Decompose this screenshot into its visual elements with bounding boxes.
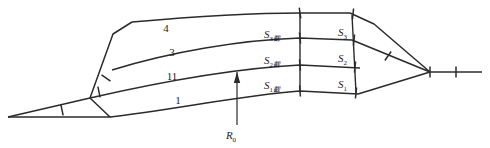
layer-3-label: 3 — [169, 46, 175, 58]
radius-arrowhead-icon — [234, 72, 240, 83]
line-diagram: 43111 S3截S2截S1截S3S2S1 R0 — [0, 0, 490, 148]
layer-boundary-curves — [90, 13, 360, 117]
layer-11-label: 11 — [167, 70, 178, 82]
cross-section-right — [352, 15, 356, 93]
s1-left-label: S1截 — [264, 79, 281, 94]
layer-number-labels: 43111 — [163, 22, 181, 106]
layer-1-label: 1 — [175, 94, 181, 106]
boundary-4 — [132, 13, 350, 22]
flank-and-base-edges — [8, 13, 482, 117]
tick-marks — [61, 8, 456, 116]
left-flank-upper — [90, 22, 132, 98]
tick-grid-b1 — [352, 9, 353, 20]
boundary-11 — [90, 65, 360, 98]
left-base-upper — [8, 98, 90, 117]
tick-base-left — [61, 105, 63, 116]
s3-right-label: S3 — [338, 26, 348, 41]
s2-right-label: S2 — [338, 52, 348, 67]
radius-label: R0 — [225, 129, 237, 144]
right-base-upper — [352, 40, 430, 72]
tick-grid-a3 — [300, 60, 301, 71]
figure-canvas: 43111 S3截S2截S1截S3S2S1 R0 — [0, 0, 490, 148]
right-flank-upper — [350, 13, 430, 72]
radius-annotation: R0 — [225, 72, 240, 144]
boundary-1 — [110, 91, 358, 117]
right-base-lower — [358, 72, 430, 94]
layer-4-label: 4 — [163, 22, 169, 34]
tick-mid-left — [101, 75, 110, 81]
s1-right-label: S1 — [338, 78, 348, 93]
cross-section-grid-lines — [300, 13, 356, 93]
tick-grid-a4 — [300, 86, 301, 97]
section-area-labels: S3截S2截S1截S3S2S1 — [264, 26, 348, 94]
